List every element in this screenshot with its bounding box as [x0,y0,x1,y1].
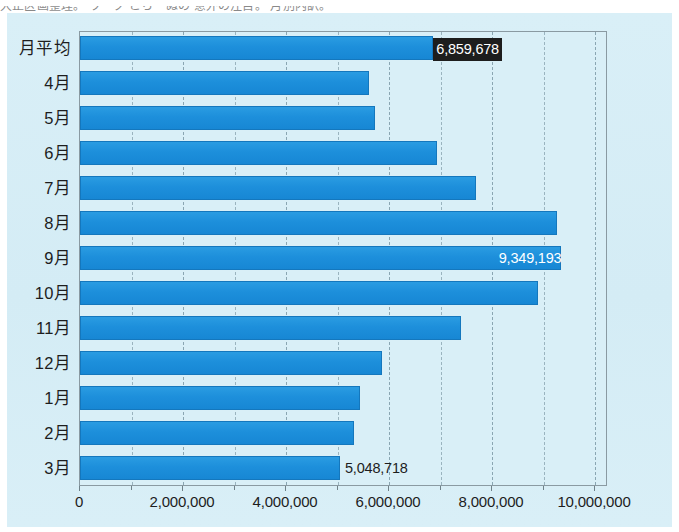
bar[interactable] [80,421,354,445]
plot-area: 6,859,6789,349,1935,048,718 [79,31,607,486]
chart-panel: 月平均4月5月6月7月8月9月10月11月12月1月2月3月 6,859,678… [7,13,672,527]
bar[interactable] [80,281,538,305]
x-axis-minor-tick [337,486,338,490]
x-axis-tick-label: 2,000,000 [150,491,215,513]
y-axis-label: 1月 [44,381,71,416]
bar-row[interactable] [80,382,606,417]
x-axis-tick-label: 8,000,000 [459,491,524,513]
page-text-fragment: 大正区画整理。 ワーク こち・ぬの 意外の注目。 月別内訳。 [0,0,679,13]
y-axis-label: 7月 [44,171,71,206]
x-axis-minor-tick [440,486,441,490]
bar-row[interactable]: 5,048,718 [80,452,606,487]
y-axis-label: 4月 [44,66,71,101]
bar[interactable] [80,456,340,480]
y-axis-label: 10月 [35,276,71,311]
bar-row[interactable] [80,102,606,137]
bar-row[interactable]: 6,859,678 [80,32,606,67]
bar[interactable] [80,36,433,60]
x-axis-tick-labels: 02,000,0004,000,0006,000,0008,000,00010,… [7,491,672,517]
x-axis-tick-label: 4,000,000 [253,491,318,513]
bar[interactable] [80,176,476,200]
bar-row[interactable] [80,312,606,347]
bar-row[interactable] [80,207,606,242]
y-axis-label: 8月 [44,206,71,241]
bar[interactable] [80,351,382,375]
bar[interactable] [80,106,375,130]
bar-row[interactable] [80,277,606,312]
bar[interactable] [80,71,369,95]
y-axis-label: 11月 [36,311,71,346]
bar-row[interactable] [80,347,606,382]
bar[interactable] [80,386,360,410]
y-axis-label: 3月 [44,451,71,486]
bar-value-label: 5,048,718 [340,458,408,478]
bar-row[interactable] [80,137,606,172]
x-axis-minor-tick [543,486,544,490]
bar[interactable] [80,211,557,235]
bar-row[interactable]: 9,349,193 [80,242,606,277]
bars-layer: 6,859,6789,349,1935,048,718 [80,32,606,485]
x-axis-tick-label: 10,000,000 [557,491,630,513]
bar-row[interactable] [80,67,606,102]
y-axis-label: 5月 [44,101,71,136]
bar[interactable] [80,141,437,165]
x-axis-tick-label: 6,000,000 [356,491,421,513]
chart-page: 大正区画整理。 ワーク こち・ぬの 意外の注目。 月別内訳。 月平均4月5月6月… [0,0,679,532]
y-axis-label: 12月 [35,346,71,381]
x-axis-minor-tick [131,486,132,490]
bar-value-label: 6,859,678 [433,38,502,61]
x-axis-tick-label: 0 [75,491,83,513]
bar-row[interactable] [80,172,606,207]
x-axis-minor-tick [234,486,235,490]
bar[interactable] [80,316,461,340]
bar-row[interactable] [80,417,606,452]
y-axis-category-labels: 月平均4月5月6月7月8月9月10月11月12月1月2月3月 [7,31,77,486]
y-axis-label: 6月 [44,136,71,171]
y-axis-label: 月平均 [19,31,71,66]
bar-value-label: 9,349,193 [80,248,567,268]
y-axis-label: 2月 [44,416,71,451]
y-axis-label: 9月 [44,241,71,276]
